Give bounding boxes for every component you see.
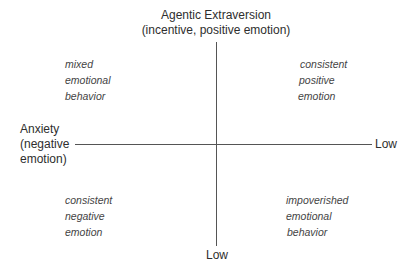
quadrant-text-line: consistent bbox=[300, 56, 347, 72]
vertical-axis-bottom-label: Low bbox=[206, 248, 228, 263]
horizontal-axis-title: Anxiety bbox=[20, 122, 80, 137]
quadrant-bottom-right: impoverished emotional behavior bbox=[286, 192, 348, 240]
quadrant-text-line: positive bbox=[299, 72, 347, 88]
vertical-axis-subtitle: (incentive, positive emotion) bbox=[116, 23, 316, 38]
quadrant-text-line: emotional bbox=[65, 72, 111, 88]
quadrant-text-line: emotional bbox=[286, 208, 348, 224]
quadrant-top-left: mixed emotional behavior bbox=[65, 56, 111, 104]
quadrant-text-line: mixed bbox=[65, 56, 111, 72]
quadrant-text-line: negative bbox=[65, 208, 112, 224]
horizontal-axis-right-label: Low bbox=[375, 137, 397, 152]
quadrant-text-line: behavior bbox=[287, 224, 348, 240]
vertical-axis-title: Agentic Extraversion bbox=[116, 8, 316, 23]
quadrant-top-right: consistent positive emotion bbox=[300, 56, 347, 104]
horizontal-axis-subtitle-1: (negative bbox=[20, 137, 80, 152]
quadrant-bottom-left: consistent negative emotion bbox=[65, 192, 112, 240]
horizontal-axis-left-label: Anxiety (negative emotion) bbox=[20, 122, 80, 167]
quadrant-text-line: emotion bbox=[298, 88, 347, 104]
horizontal-axis-subtitle-2: emotion) bbox=[20, 152, 80, 167]
quadrant-text-line: consistent bbox=[65, 192, 112, 208]
vertical-axis-top-label: Agentic Extraversion (incentive, positiv… bbox=[116, 8, 316, 38]
quadrant-text-line: behavior bbox=[65, 88, 111, 104]
quadrant-text-line: emotion bbox=[65, 224, 112, 240]
quadrant-text-line: impoverished bbox=[286, 192, 348, 208]
horizontal-axis-line bbox=[75, 144, 372, 145]
